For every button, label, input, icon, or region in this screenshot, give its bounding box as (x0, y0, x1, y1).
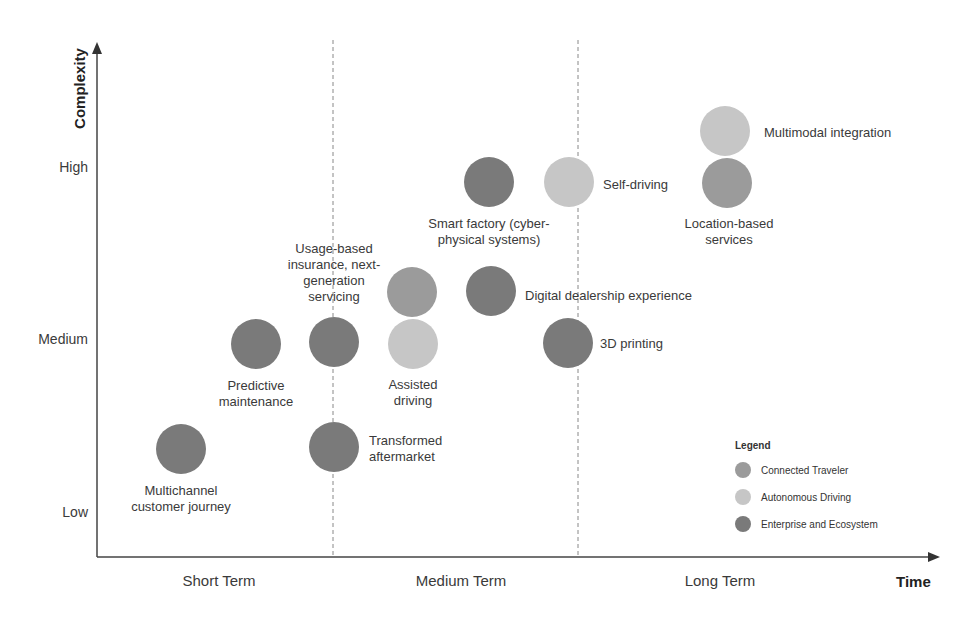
node-circle (388, 319, 438, 369)
legend-label: Autonomous Driving (761, 492, 851, 503)
node-circle (156, 424, 206, 474)
node-circle (466, 266, 516, 316)
legend-item-connected-traveler: Connected Traveler (735, 461, 878, 479)
label-transformed: Transformedaftermarket (369, 433, 442, 465)
label-usage-based: Usage-basedinsurance, next-generationser… (269, 241, 399, 305)
label-multichannel: Multichannelcustomer journey (111, 483, 251, 515)
legend: Legend Connected Traveler Autonomous Dri… (735, 440, 878, 542)
x-tick-short-term: Short Term (139, 572, 299, 589)
label-multimodal: Multimodal integration (764, 125, 891, 141)
y-tick-high: High (18, 159, 88, 175)
x-axis-title: Time (896, 573, 931, 590)
legend-item-enterprise-ecosystem: Enterprise and Ecosystem (735, 515, 878, 533)
label-digital-dealership: Digital dealership experience (525, 288, 692, 304)
legend-title: Legend (735, 440, 878, 451)
label-self-driving: Self-driving (603, 177, 668, 193)
label-location-based: Location-basedservices (667, 216, 791, 248)
label-predictive: Predictivemaintenance (196, 378, 316, 410)
node-circle (309, 422, 359, 472)
label-3d-printing: 3D printing (600, 336, 663, 352)
x-axis-arrow-icon (928, 552, 940, 562)
legend-item-autonomous-driving: Autonomous Driving (735, 488, 878, 506)
y-tick-low: Low (18, 504, 88, 520)
node-circle (543, 318, 593, 368)
y-tick-medium: Medium (18, 331, 88, 347)
node-circle (464, 157, 514, 207)
enterprise-ecosystem-swatch-icon (735, 516, 751, 532)
y-axis-title: Complexity (71, 44, 88, 134)
label-assisted: Assisteddriving (363, 377, 463, 409)
node-circle (702, 158, 752, 208)
y-axis-arrow-icon (92, 42, 102, 54)
connected-traveler-swatch-icon (735, 462, 751, 478)
node-circle (309, 317, 359, 367)
label-smart-factory: Smart factory (cyber-physical systems) (404, 216, 574, 248)
x-tick-medium-term: Medium Term (381, 572, 541, 589)
x-tick-long-term: Long Term (640, 572, 800, 589)
autonomous-driving-swatch-icon (735, 489, 751, 505)
node-circle (700, 106, 750, 156)
node-circle (544, 157, 594, 207)
node-circle (231, 319, 281, 369)
legend-label: Connected Traveler (761, 465, 848, 476)
legend-label: Enterprise and Ecosystem (761, 519, 878, 530)
